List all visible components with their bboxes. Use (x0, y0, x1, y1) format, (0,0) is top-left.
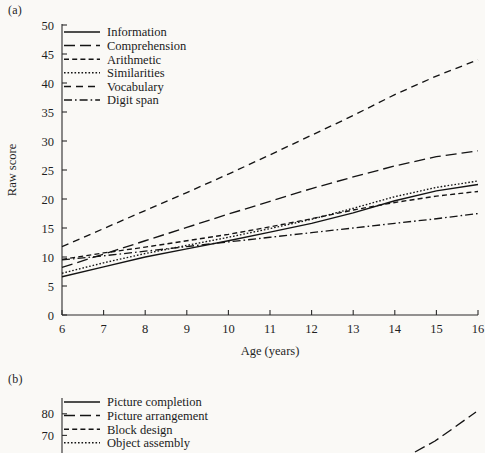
legend-label-arithmetic: Arithmetic (107, 53, 162, 67)
y-tick-label: 40 (42, 77, 55, 91)
x-tick-label: 15 (430, 322, 443, 336)
series-line-similarities (62, 181, 478, 273)
y-tick-label: 0 (48, 309, 54, 323)
y-tick-label: 15 (42, 222, 55, 236)
y-tick-label: 10 (42, 251, 55, 265)
x-tick-label: 14 (389, 322, 402, 336)
legend-label-block-design: Block design (107, 423, 173, 437)
x-tick-label: 6 (59, 322, 65, 336)
chart-panel-b: 7080Picture completionPicture arrangemen… (0, 358, 485, 453)
y-tick-label: 50 (42, 19, 55, 33)
x-tick-label: 10 (222, 322, 235, 336)
y-tick-label: 5 (48, 280, 54, 294)
y-tick-label: 30 (42, 135, 55, 149)
x-tick-label: 13 (347, 322, 360, 336)
legend-label-object-assembly: Object assembly (107, 436, 191, 450)
y-tick-label: 20 (42, 193, 55, 207)
x-tick-label: 12 (305, 322, 318, 336)
y-tick-label-b: 80 (42, 407, 55, 421)
y-tick-label-b: 70 (42, 429, 55, 443)
x-tick-label: 8 (142, 322, 148, 336)
series-line-comprehension (62, 151, 478, 268)
y-axis-title: Raw score (5, 143, 19, 196)
legend-label-picture-arrangement: Picture arrangement (107, 409, 209, 423)
y-tick-label: 35 (42, 106, 55, 120)
y-tick-label: 45 (42, 48, 55, 62)
series-line-digit-span (62, 214, 478, 260)
chart-panel-a: 05101520253035404550678910111213141516Ag… (0, 0, 485, 370)
x-tick-label: 16 (472, 322, 485, 336)
y-tick-label: 25 (42, 164, 55, 178)
legend-label-digit-span: Digit span (107, 93, 159, 107)
x-axis-title: Age (years) (241, 344, 300, 358)
legend-label-comprehension: Comprehension (107, 39, 187, 53)
series-line-picture-arrangement (415, 412, 476, 452)
x-tick-label: 11 (264, 322, 276, 336)
series-line-information (62, 185, 478, 277)
legend-label-information: Information (107, 25, 167, 39)
x-tick-label: 9 (184, 322, 190, 336)
x-tick-label: 7 (100, 322, 106, 336)
legend-label-picture-completion: Picture completion (107, 395, 203, 409)
legend-label-similarities: Similarities (107, 66, 165, 80)
legend-label-vocabulary: Vocabulary (107, 80, 164, 94)
figure-root: (a) (b) 05101520253035404550678910111213… (0, 0, 485, 453)
